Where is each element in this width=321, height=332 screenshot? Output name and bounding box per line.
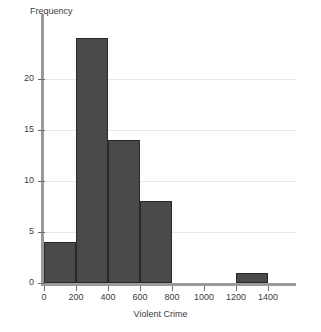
histogram-bar	[236, 273, 268, 283]
x-tick-mark	[44, 286, 45, 291]
y-tick-label: 20	[10, 74, 34, 83]
x-tick-mark	[140, 286, 141, 291]
histogram-chart: Frequency 05101520 020040060080010001200…	[0, 0, 321, 332]
x-tick-mark	[268, 286, 269, 291]
x-tick-mark	[172, 286, 173, 291]
y-tick-mark	[38, 283, 45, 284]
x-axis-line	[41, 283, 296, 286]
histogram-bar	[44, 242, 76, 283]
y-tick-label: 5	[10, 227, 34, 236]
x-tick-mark	[204, 286, 205, 291]
y-tick-label: 15	[10, 125, 34, 134]
histogram-bar	[76, 38, 108, 283]
y-tick-mark	[38, 79, 45, 80]
histogram-bar	[140, 201, 172, 283]
y-tick-mark	[38, 232, 45, 233]
x-tick-mark	[76, 286, 77, 291]
y-axis-title: Frequency	[30, 6, 73, 16]
x-tick-label: 1400	[248, 293, 288, 302]
y-tick-mark	[38, 181, 45, 182]
histogram-bar	[108, 140, 140, 283]
y-tick-mark	[38, 130, 45, 131]
x-axis-title: Violent Crime	[0, 309, 321, 319]
x-tick-mark	[108, 286, 109, 291]
y-tick-label: 0	[10, 278, 34, 287]
y-tick-label: 10	[10, 176, 34, 185]
y-axis-line	[41, 14, 44, 283]
x-tick-mark	[236, 286, 237, 291]
plot-area: Frequency 05101520 020040060080010001200…	[0, 0, 321, 332]
